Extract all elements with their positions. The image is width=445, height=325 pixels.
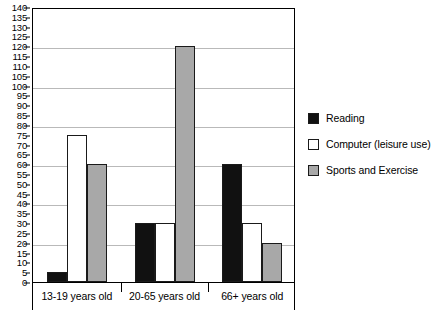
legend-item-reading: Reading <box>308 108 440 128</box>
bar-reading-group-2 <box>135 223 155 282</box>
x-tick-label: 13-19 years old <box>33 290 121 302</box>
y-tick-mark <box>26 66 30 67</box>
y-tick-mark <box>26 194 30 195</box>
white-square-icon <box>308 139 319 150</box>
y-tick-mark <box>26 27 30 28</box>
y-tick-mark <box>26 57 30 58</box>
bar-reading-group-3 <box>222 164 242 282</box>
x-tick-label: 20-65 years old <box>121 290 209 302</box>
bars-layer <box>33 9 294 282</box>
y-tick-mark <box>26 135 30 136</box>
x-axis-divider <box>208 283 209 292</box>
y-tick-mark <box>24 204 30 205</box>
y-tick-mark <box>26 233 30 234</box>
y-tick-mark <box>26 174 30 175</box>
bar-computer-group-3 <box>242 223 262 282</box>
y-tick-mark <box>26 184 30 185</box>
x-axis-label-band: 13-19 years old20-65 years old66+ years … <box>32 283 295 310</box>
legend-item-computer: Computer (leisure use) <box>308 134 440 154</box>
y-axis: 1401351301251201151101051009590858075706… <box>0 8 30 283</box>
y-tick-mark <box>24 47 30 48</box>
y-tick-mark <box>26 106 30 107</box>
chart-legend: Reading Computer (leisure use) Sports an… <box>308 108 440 186</box>
x-axis-divider <box>121 283 122 292</box>
bar-reading-group-1 <box>47 272 67 282</box>
y-tick-mark <box>26 253 30 254</box>
y-tick-mark <box>26 224 30 225</box>
y-tick-mark <box>26 116 30 117</box>
bar-sports-group-1 <box>87 164 107 282</box>
black-square-icon <box>308 113 319 124</box>
bar-chart: 1401351301251201151101051009590858075706… <box>0 0 445 325</box>
y-tick-mark <box>24 165 30 166</box>
y-tick-mark <box>26 145 30 146</box>
bar-computer-group-2 <box>155 223 175 282</box>
plot-area <box>32 8 295 283</box>
y-tick-mark <box>26 37 30 38</box>
legend-item-sports: Sports and Exercise <box>308 160 440 180</box>
y-tick-mark <box>26 96 30 97</box>
y-tick-mark <box>26 273 30 274</box>
gray-square-icon <box>308 165 319 176</box>
legend-item-label: Reading <box>326 112 364 124</box>
legend-item-label: Sports and Exercise <box>326 164 418 176</box>
legend-item-label: Computer (leisure use) <box>326 138 431 150</box>
bar-computer-group-1 <box>67 135 87 282</box>
y-tick-mark <box>24 243 30 244</box>
y-tick-mark <box>26 76 30 77</box>
y-tick-mark <box>24 283 30 284</box>
y-tick-mark <box>26 17 30 18</box>
y-tick-mark <box>24 86 30 87</box>
x-tick-label: 66+ years old <box>208 290 296 302</box>
y-tick-mark <box>26 263 30 264</box>
bar-sports-group-3 <box>262 243 282 282</box>
y-tick-mark <box>24 125 30 126</box>
bar-sports-group-2 <box>175 46 195 282</box>
y-tick-mark <box>26 214 30 215</box>
y-tick-mark <box>26 155 30 156</box>
y-tick-mark <box>24 8 30 9</box>
